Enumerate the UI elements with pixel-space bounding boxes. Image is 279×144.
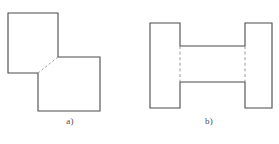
figure-a-caption: a) bbox=[0, 116, 140, 127]
figure-sheet: a) b) bbox=[0, 0, 279, 144]
figure-b-caption: b) bbox=[139, 116, 279, 127]
figure-panel-a: a) bbox=[0, 0, 140, 144]
figure-panel-b: b) bbox=[139, 0, 279, 144]
figure-a-outline-shape bbox=[8, 13, 100, 111]
figure-b-outline-shape bbox=[150, 23, 272, 108]
